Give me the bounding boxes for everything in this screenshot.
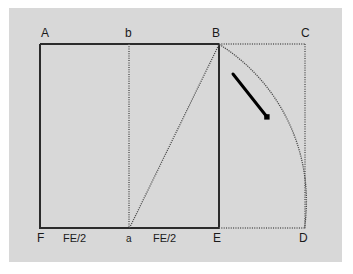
arc-B-D bbox=[220, 45, 307, 229]
vertex-label-a: a bbox=[126, 234, 132, 244]
segment-label-fa: FE/2 bbox=[63, 233, 86, 244]
vertex-label-E: E bbox=[213, 232, 221, 244]
vertex-label-C: C bbox=[301, 27, 310, 39]
vertex-label-A: A bbox=[41, 27, 49, 39]
diagonal-a-B bbox=[130, 45, 220, 229]
segment-label-ae: FE/2 bbox=[153, 233, 176, 244]
vertex-label-b: b bbox=[125, 27, 132, 39]
arc-pointer-tip bbox=[264, 114, 269, 119]
vertex-label-B: B bbox=[212, 27, 220, 39]
vertex-label-D: D bbox=[299, 232, 308, 244]
vertex-label-F: F bbox=[37, 232, 45, 244]
diagram-screenshot: A b B C F a E D FE/2 FE/2 bbox=[0, 0, 353, 274]
